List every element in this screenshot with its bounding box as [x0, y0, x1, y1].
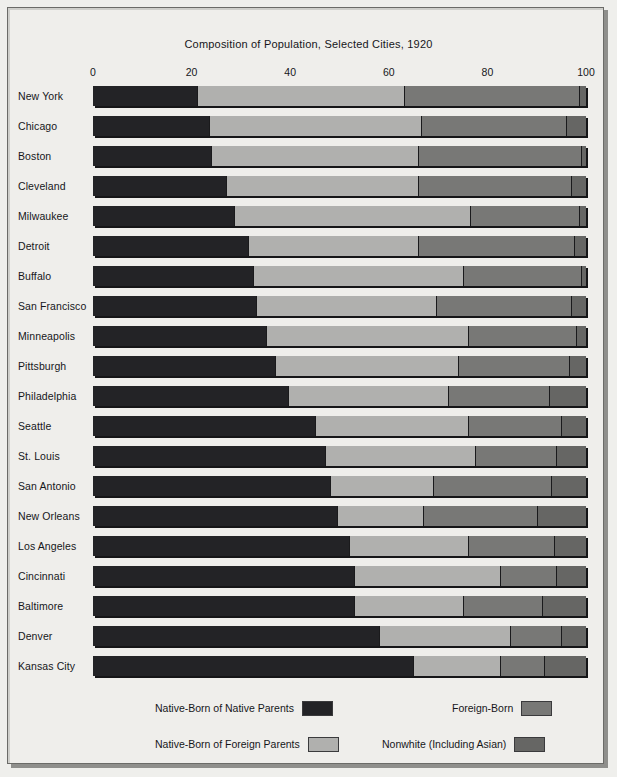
- stacked-bar: [93, 296, 586, 316]
- stacked-bar: [93, 206, 586, 226]
- x-tick-label: 80: [482, 66, 494, 78]
- legend-label: Native-Born of Native Parents: [155, 702, 294, 714]
- stacked-bar: [93, 476, 586, 496]
- bar-segment: [571, 176, 586, 196]
- bar-segment: [537, 506, 586, 526]
- bar-segment: [93, 296, 256, 316]
- bar-segment: [579, 86, 586, 106]
- bar-segment: [226, 176, 418, 196]
- bar-segment: [93, 386, 288, 406]
- bar-segment: [433, 476, 551, 496]
- bar-segment: [404, 86, 579, 106]
- bar-segment: [93, 86, 197, 106]
- plot-area: New YorkChicagoBostonClevelandMilwaukeeD…: [0, 84, 617, 684]
- bar-segment: [93, 266, 253, 286]
- chart-legend: Native-Born of Native ParentsNative-Born…: [0, 694, 617, 764]
- x-tick-label: 0: [90, 66, 96, 78]
- stacked-bar: [93, 446, 586, 466]
- bar-segment: [566, 116, 586, 136]
- bar-segment: [569, 356, 586, 376]
- x-tick-label: 40: [284, 66, 296, 78]
- bar-segment: [93, 626, 379, 646]
- stacked-bar: [93, 596, 586, 616]
- chart-title: Composition of Population, Selected Citi…: [0, 38, 617, 50]
- chart-row: Cincinnati: [0, 564, 617, 594]
- bar-segment: [561, 416, 586, 436]
- chart-row: Seattle: [0, 414, 617, 444]
- legend-item: Native-Born of Foreign Parents: [155, 734, 339, 754]
- x-tick-label: 100: [577, 66, 595, 78]
- chart-row: New York: [0, 84, 617, 114]
- bar-segment: [315, 416, 468, 436]
- chart-row: Minneapolis: [0, 324, 617, 354]
- category-label: Minneapolis: [18, 330, 86, 342]
- bar-segment: [248, 236, 418, 256]
- legend-swatch: [514, 737, 545, 752]
- bar-segment: [209, 116, 421, 136]
- category-label: New York: [18, 90, 86, 102]
- stacked-bar: [93, 536, 586, 556]
- bar-segment: [418, 236, 573, 256]
- bar-segment: [510, 626, 562, 646]
- x-tick-label: 20: [186, 66, 198, 78]
- bar-segment: [423, 506, 536, 526]
- category-label: Detroit: [18, 240, 86, 252]
- chart-row: Philadelphia: [0, 384, 617, 414]
- category-label: St. Louis: [18, 450, 86, 462]
- category-label: Denver: [18, 630, 86, 642]
- legend-item: Nonwhite (Including Asian): [382, 734, 545, 754]
- bar-segment: [197, 86, 404, 106]
- bar-segment: [463, 266, 581, 286]
- stacked-bar: [93, 416, 586, 436]
- category-label: Seattle: [18, 420, 86, 432]
- bar-segment: [93, 566, 354, 586]
- bar-segment: [448, 386, 549, 406]
- bar-segment: [576, 326, 586, 346]
- bar-segment: [266, 326, 468, 346]
- legend-label: Foreign-Born: [452, 702, 513, 714]
- frame-shadow-bottom: [11, 764, 608, 768]
- category-label: Boston: [18, 150, 86, 162]
- chart-row: Detroit: [0, 234, 617, 264]
- category-label: Buffalo: [18, 270, 86, 282]
- bar-segment: [468, 416, 562, 436]
- bar-segment: [544, 656, 586, 676]
- chart-row: Buffalo: [0, 264, 617, 294]
- bar-segment: [93, 446, 325, 466]
- chart-row: San Antonio: [0, 474, 617, 504]
- bar-segment: [475, 446, 556, 466]
- stacked-bar: [93, 566, 586, 586]
- bar-segment: [354, 596, 462, 616]
- stacked-bar: [93, 656, 586, 676]
- bar-segment: [436, 296, 572, 316]
- legend-swatch: [521, 701, 552, 716]
- bar-segment: [413, 656, 499, 676]
- bar-segment: [256, 296, 436, 316]
- category-label: Milwaukee: [18, 210, 86, 222]
- bar-segment: [574, 236, 586, 256]
- legend-label: Nonwhite (Including Asian): [382, 738, 506, 750]
- bar-segment: [93, 416, 315, 436]
- bar-segment: [379, 626, 510, 646]
- bar-segment: [288, 386, 448, 406]
- chart-row: New Orleans: [0, 504, 617, 534]
- bar-segment: [463, 596, 542, 616]
- bar-segment: [354, 566, 499, 586]
- bar-segment: [468, 536, 554, 556]
- bar-segment: [418, 176, 571, 196]
- chart-row: Baltimore: [0, 594, 617, 624]
- bar-segment: [581, 266, 586, 286]
- chart-row: Chicago: [0, 114, 617, 144]
- legend-swatch: [308, 737, 339, 752]
- chart-row: Pittsburgh: [0, 354, 617, 384]
- bar-segment: [581, 146, 586, 166]
- stacked-bar: [93, 146, 586, 166]
- bar-segment: [458, 356, 569, 376]
- bar-segment: [500, 656, 544, 676]
- chart-row: San Francisco: [0, 294, 617, 324]
- stacked-bar: [93, 86, 586, 106]
- bar-segment: [556, 446, 586, 466]
- bar-segment: [349, 536, 467, 556]
- bar-segment: [275, 356, 457, 376]
- chart-row: Kansas City: [0, 654, 617, 684]
